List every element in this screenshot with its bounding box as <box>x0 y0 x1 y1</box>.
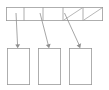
diagram-svg <box>0 0 109 90</box>
array-cell-0[interactable] <box>6 7 24 20</box>
block-2[interactable] <box>38 48 60 84</box>
pointer-array <box>6 7 102 20</box>
block-3[interactable] <box>69 48 91 84</box>
block-group <box>7 48 91 84</box>
arrow-head-icon-0 <box>15 44 20 48</box>
diagram-canvas <box>0 0 109 90</box>
block-1[interactable] <box>7 48 29 84</box>
arrow-head-icon-1 <box>46 44 51 48</box>
array-cell-2[interactable] <box>43 7 63 20</box>
